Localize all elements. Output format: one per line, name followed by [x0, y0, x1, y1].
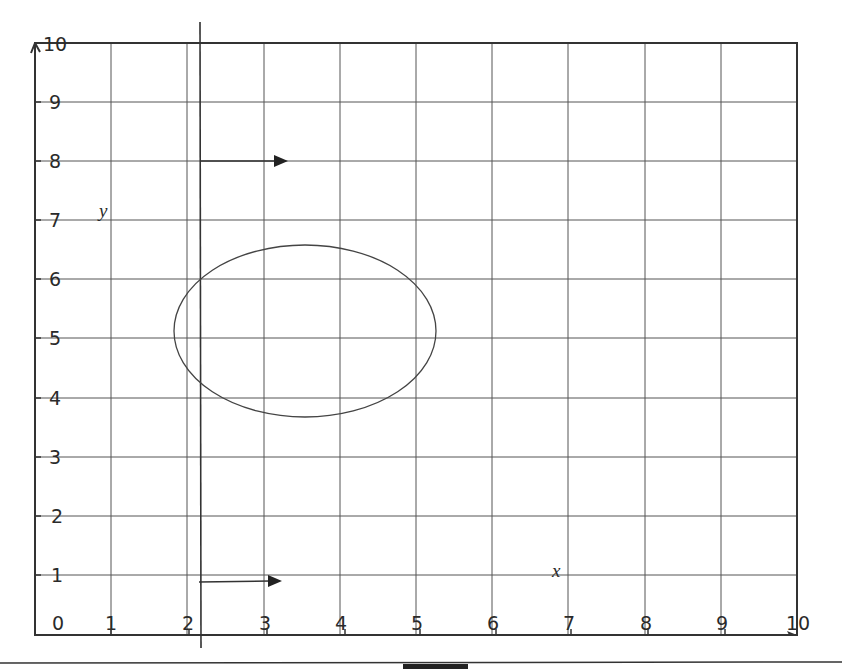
translation-arrow-bottom [199, 575, 282, 587]
grid-vertical-lines [111, 43, 721, 635]
x-axis-label: x [551, 560, 561, 581]
y-tick-labels: 10 9 8 7 6 5 4 3 2 1 [43, 33, 67, 586]
y-tick-1: 1 [51, 564, 63, 586]
translation-arrow-top [200, 155, 288, 167]
ellipse-shape [174, 245, 436, 417]
y-tick-6: 6 [49, 268, 61, 290]
x-tick-5: 5 [411, 612, 423, 634]
y-tick-5: 5 [49, 327, 61, 349]
y-tick-7: 7 [49, 209, 61, 231]
page-bottom-rule [0, 662, 842, 663]
arrowhead-icon [268, 575, 282, 587]
y-axis-label: y [97, 200, 108, 221]
arrowhead-icon [274, 155, 288, 167]
x-tick-9: 9 [716, 612, 728, 634]
x-tick-10: 10 [786, 612, 810, 634]
x-tick-2: 2 [182, 612, 194, 634]
y-tick-8: 8 [49, 150, 61, 172]
x-tick-3: 3 [259, 612, 271, 634]
mirror-line [200, 22, 201, 648]
page-footer-block [403, 664, 468, 669]
x-tick-labels: 0 1 2 3 4 5 6 7 8 9 10 [52, 612, 810, 634]
y-tick-3: 3 [49, 446, 61, 468]
x-tick-0: 0 [52, 612, 64, 634]
y-tick-4: 4 [49, 387, 61, 409]
x-tick-8: 8 [640, 612, 652, 634]
y-tick-2: 2 [51, 505, 63, 527]
y-tick-9: 9 [49, 91, 61, 113]
x-tick-6: 6 [487, 612, 499, 634]
coordinate-grid-diagram: 10 9 8 7 6 5 4 3 2 1 0 1 2 3 4 5 6 7 8 9… [0, 0, 842, 669]
x-tick-7: 7 [563, 612, 575, 634]
y-tick-10: 10 [43, 33, 67, 55]
